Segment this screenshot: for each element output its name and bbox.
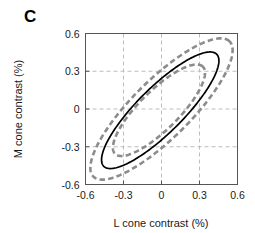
y-tick-label: 0.3	[65, 65, 80, 77]
x-axis-title: L cone contrast (%)	[114, 217, 209, 229]
x-tick-label: 0	[159, 189, 165, 201]
y-tick-label: 0.6	[65, 28, 80, 40]
y-tick-label: -0.6	[61, 179, 79, 191]
x-tick-label: 0.3	[192, 189, 207, 201]
scatter-contour-plot: -0.6-0.300.30.6 -0.6-0.300.30.6 L cone c…	[0, 0, 255, 233]
x-tick-label: 0.6	[230, 189, 245, 201]
contour-outer-contour	[90, 38, 232, 179]
figure-panel-c: C -0.6-0.300.30.6 -0.6-0.300.30.6 L cone…	[0, 0, 255, 233]
y-tick-label: -0.3	[61, 141, 79, 153]
y-tick-labels: -0.6-0.300.30.6	[61, 28, 79, 191]
y-axis-title: M cone contrast (%)	[12, 60, 24, 158]
contour-curves	[90, 38, 232, 179]
gridlines	[86, 34, 238, 185]
y-tick-label: 0	[74, 103, 80, 115]
x-tick-labels: -0.6-0.300.30.6	[76, 189, 244, 201]
x-tick-label: -0.3	[114, 189, 132, 201]
